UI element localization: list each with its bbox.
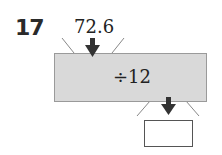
answer-box[interactable] (144, 120, 193, 147)
down-arrow-icon (161, 97, 176, 115)
down-arrow-icon (85, 38, 100, 57)
